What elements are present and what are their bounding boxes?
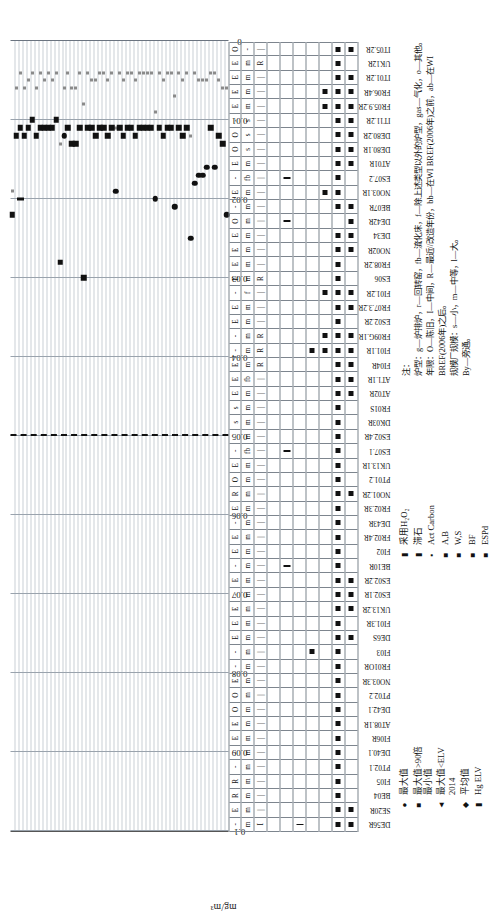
table-cell bbox=[280, 315, 292, 329]
tech-legend-label: Act Carbon bbox=[425, 505, 436, 545]
data-marker-square bbox=[219, 141, 225, 147]
table-cell bbox=[306, 415, 318, 429]
table-cell bbox=[280, 42, 292, 56]
data-marker-square bbox=[207, 125, 213, 131]
plot-row-gridline bbox=[38, 41, 39, 831]
table-cell: fb bbox=[241, 444, 253, 458]
table-cell: fb bbox=[241, 171, 253, 185]
plant-code-label: DE43R bbox=[368, 519, 390, 528]
table-cell bbox=[319, 157, 331, 171]
table-cell bbox=[280, 301, 292, 315]
plot-row-gridline bbox=[65, 41, 66, 831]
table-cell: | bbox=[254, 545, 266, 559]
plot-row-gridline bbox=[165, 41, 166, 831]
table-cell bbox=[293, 171, 305, 185]
table-cell bbox=[319, 760, 331, 774]
data-marker-small-grey-square bbox=[106, 79, 109, 82]
table-cell: E bbox=[229, 387, 240, 401]
marker-legend: ●最大值■最大值>90倍 最小值◄最大值<ELV 2014◆平均值▮Hg ELV bbox=[398, 746, 486, 810]
table-cell bbox=[280, 229, 292, 243]
plant-code-label: FI01.3R bbox=[366, 619, 390, 628]
table-cell: | bbox=[254, 286, 266, 300]
table-cell bbox=[293, 387, 305, 401]
table-cell bbox=[267, 229, 279, 243]
table-cell bbox=[267, 301, 279, 315]
table-cell: m bbox=[241, 214, 253, 228]
table-cell bbox=[306, 602, 318, 616]
table-cell bbox=[293, 545, 305, 559]
plot-row-gridline bbox=[224, 41, 225, 831]
table-cell bbox=[280, 588, 292, 602]
data-marker-square bbox=[21, 133, 27, 139]
table-cell: E bbox=[229, 99, 240, 113]
table-cell: | bbox=[254, 430, 266, 444]
table-cell bbox=[293, 415, 305, 429]
table-cell: m bbox=[241, 186, 253, 200]
table-cell: | bbox=[254, 487, 266, 501]
table-cell bbox=[267, 775, 279, 789]
table-cell: m bbox=[241, 243, 253, 257]
table-cell bbox=[280, 530, 292, 544]
table-cell bbox=[319, 415, 331, 429]
plot-row-gridline bbox=[137, 41, 138, 831]
table-cell bbox=[280, 459, 292, 473]
table-cell: m bbox=[241, 573, 253, 587]
axis-tick-label: 7 bbox=[0, 590, 5, 600]
table-cell bbox=[280, 114, 292, 128]
plant-code-label: UK13.2R bbox=[362, 605, 390, 614]
filled-square-icon bbox=[309, 649, 314, 654]
table-cell bbox=[306, 344, 318, 358]
table-cell bbox=[267, 545, 279, 559]
data-marker-square bbox=[128, 125, 134, 131]
data-marker-small-grey-square bbox=[42, 79, 45, 82]
table-cell: R bbox=[229, 487, 240, 501]
data-marker-square bbox=[89, 125, 95, 131]
table-cell bbox=[280, 674, 292, 688]
table-cell: E bbox=[229, 602, 240, 616]
table-cell: | bbox=[254, 617, 266, 631]
table-cell bbox=[306, 818, 318, 832]
table-cell: m bbox=[241, 545, 253, 559]
data-marker-small-grey-square bbox=[102, 71, 105, 74]
table-cell: m bbox=[241, 516, 253, 530]
table-cell bbox=[280, 660, 292, 674]
plant-code-label: NO03.3R bbox=[362, 677, 390, 686]
table-cell: R bbox=[229, 789, 240, 803]
table-cell bbox=[293, 272, 305, 286]
data-marker-small-grey-square bbox=[141, 71, 144, 74]
data-marker-small-grey-square bbox=[177, 71, 180, 74]
tech-legend-symbol-icon: ▪ bbox=[425, 550, 436, 560]
table-cell bbox=[293, 573, 305, 587]
table-cell: m bbox=[241, 56, 253, 70]
dash-marker-icon bbox=[283, 565, 290, 567]
plant-code-label: FI02 bbox=[376, 547, 390, 556]
table-cell bbox=[280, 128, 292, 142]
table-row bbox=[267, 42, 280, 832]
table-cell bbox=[293, 430, 305, 444]
data-marker-small-grey-square bbox=[70, 87, 73, 90]
table-cell: - bbox=[229, 329, 240, 343]
table-cell bbox=[267, 717, 279, 731]
table-cell: E bbox=[229, 372, 240, 386]
table-cell: E bbox=[229, 157, 240, 171]
table-cell bbox=[319, 645, 331, 659]
table-cell: s bbox=[241, 114, 253, 128]
table-cell: m bbox=[241, 803, 253, 817]
plant-code-label: FI05 bbox=[376, 777, 390, 786]
data-marker-small-grey-square bbox=[86, 71, 89, 74]
plant-code-label: BE10R bbox=[369, 562, 391, 571]
plant-code-label: ES02.4R bbox=[364, 432, 390, 441]
table-cell bbox=[319, 315, 331, 329]
data-marker-small-grey-square bbox=[165, 71, 168, 74]
filled-square-icon bbox=[322, 290, 327, 295]
marker-legend-item: ■最大值>90倍 最小值 bbox=[412, 746, 433, 810]
table-cell bbox=[267, 85, 279, 99]
data-marker-small-grey-square bbox=[149, 71, 152, 74]
table-cell bbox=[306, 272, 318, 286]
tech-legend-label: W,S bbox=[452, 531, 463, 545]
data-marker-small-grey-square bbox=[145, 71, 148, 74]
tech-legend-item: ■ESPd bbox=[479, 505, 490, 560]
plot-value-gridline bbox=[10, 40, 228, 41]
table-cell: | bbox=[254, 502, 266, 516]
table-cell bbox=[280, 56, 292, 70]
